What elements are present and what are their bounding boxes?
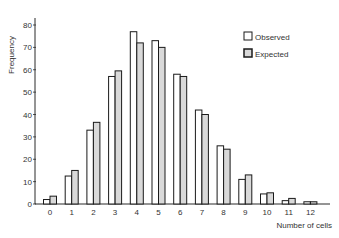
bar-expected [50, 196, 57, 204]
x-tick-label: 11 [285, 208, 294, 217]
x-tick-label: 0 [48, 208, 53, 217]
x-tick-label: 10 [263, 208, 272, 217]
bar-observed [152, 41, 159, 204]
y-tick-label: 0 [28, 200, 33, 209]
legend-label-observed: Observed [255, 33, 290, 42]
y-tick-label: 10 [23, 178, 32, 187]
x-axis: 0123456789101112 [35, 204, 330, 217]
legend-swatch-observed [244, 32, 252, 40]
x-tick-label: 9 [243, 208, 248, 217]
bar-expected [137, 43, 144, 204]
legend-swatch-expected [244, 49, 252, 57]
x-tick-label: 4 [135, 208, 140, 217]
bar-expected [267, 193, 274, 204]
bar-expected [289, 198, 296, 204]
x-tick-label: 12 [306, 208, 315, 217]
bar-expected [310, 202, 317, 204]
bar-expected [93, 122, 100, 204]
x-tick-label: 7 [200, 208, 205, 217]
bar-expected [224, 149, 231, 204]
x-tick-label: 2 [91, 208, 96, 217]
y-tick-label: 60 [23, 66, 32, 75]
bar-observed [130, 32, 137, 204]
bar-expected [245, 175, 252, 204]
y-tick-label: 30 [23, 133, 32, 142]
y-tick-label: 70 [23, 43, 32, 52]
bar-observed [239, 179, 246, 204]
legend: Observed Expected [244, 32, 290, 59]
y-tick-label: 50 [23, 88, 32, 97]
bar-expected [115, 71, 122, 204]
bar-observed [109, 76, 116, 204]
bar-observed [217, 146, 224, 204]
bar-observed [282, 201, 289, 204]
x-tick-label: 6 [178, 208, 183, 217]
frequency-bar-chart: 01020304050607080 0123456789101112 Frequ… [0, 0, 339, 238]
legend-label-expected: Expected [255, 50, 288, 59]
bar-expected [159, 47, 166, 204]
y-axis: 01020304050607080 [23, 18, 36, 209]
bar-observed [304, 202, 311, 204]
bar-observed [44, 200, 51, 204]
bar-expected [202, 115, 209, 205]
bar-expected [72, 170, 79, 204]
x-tick-label: 3 [113, 208, 118, 217]
x-tick-label: 5 [156, 208, 161, 217]
bar-observed [261, 194, 268, 204]
bar-observed [87, 130, 94, 204]
bar-observed [195, 110, 202, 204]
bar-observed [174, 74, 181, 204]
y-tick-label: 20 [23, 155, 32, 164]
x-axis-title: Number of cells [276, 221, 332, 230]
bar-expected [180, 76, 187, 204]
bar-observed [65, 176, 72, 204]
x-tick-label: 8 [221, 208, 226, 217]
y-tick-label: 80 [23, 21, 32, 30]
y-axis-title: Frequency [7, 36, 16, 74]
x-tick-label: 1 [69, 208, 74, 217]
y-tick-label: 40 [23, 111, 32, 120]
